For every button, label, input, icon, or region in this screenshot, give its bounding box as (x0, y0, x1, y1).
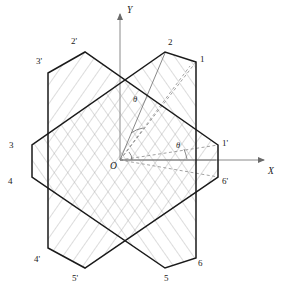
vertex-label-1: 1 (200, 54, 205, 64)
vertex-label-4: 4 (8, 176, 13, 186)
origin-label: O (110, 161, 117, 171)
vertex-label-5prime: 5' (72, 273, 79, 283)
vertex-label-2: 2 (168, 37, 173, 47)
theta-label-upper: θ (133, 94, 137, 104)
x-axis-label: X (267, 166, 275, 176)
vertex-label-3prime: 3' (36, 56, 43, 66)
vertex-label-4prime: 4' (34, 254, 41, 264)
vertex-label-6prime: 6' (222, 176, 229, 186)
vertex-label-2prime: 2' (71, 36, 78, 46)
vertex-label-3: 3 (9, 140, 14, 150)
vertex-label-5: 5 (164, 273, 169, 283)
rotated-hexagons-diagram: 1' 2' 3' 4' 5' 6' 1 2 3 4 5 6 Y X O θ θ (0, 0, 283, 285)
theta-label-lower: θ (176, 140, 180, 150)
vertex-label-6: 6 (198, 258, 203, 268)
vertex-label-1prime: 1' (222, 138, 229, 148)
